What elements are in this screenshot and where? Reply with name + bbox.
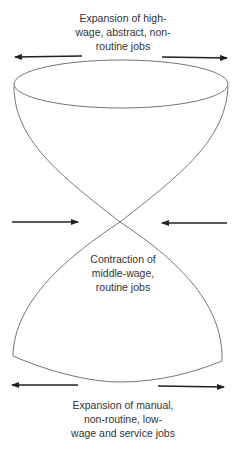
top-label-line: routine jobs — [40, 39, 206, 53]
upper-right-curve — [120, 86, 228, 222]
bottom-label-line: Expansion of manual, — [40, 398, 206, 412]
middle-label-line: middle-wage, — [60, 266, 186, 280]
hourglass-shape — [0, 0, 239, 449]
arrow-top-right — [162, 57, 227, 58]
top-ellipse — [14, 60, 228, 108]
top-label: Expansion of high- wage, abstract, non- … — [40, 11, 206, 53]
arrow-bottom-right — [158, 386, 224, 387]
arrow-top-left — [15, 56, 82, 57]
middle-label-line: routine jobs — [60, 280, 186, 294]
middle-label-line: Contraction of — [60, 252, 186, 266]
hourglass-diagram: Expansion of high- wage, abstract, non- … — [0, 0, 239, 449]
bottom-label: Expansion of manual, non-routine, low- w… — [40, 398, 206, 440]
bottom-arc — [13, 356, 222, 382]
top-label-line: wage, abstract, non- — [40, 25, 206, 39]
upper-left-curve — [14, 86, 120, 222]
bottom-label-line: non-routine, low- — [40, 412, 206, 426]
bottom-label-line: wage and service jobs — [40, 426, 206, 440]
top-label-line: Expansion of high- — [40, 11, 206, 25]
middle-label: Contraction of middle-wage, routine jobs — [60, 252, 186, 294]
